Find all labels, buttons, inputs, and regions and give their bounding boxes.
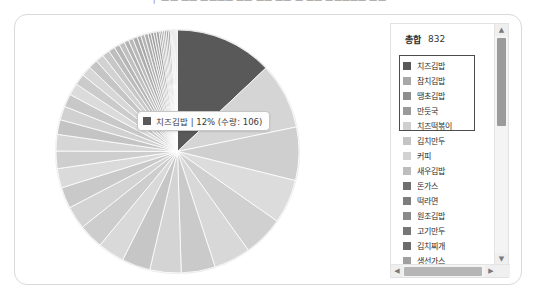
- legend-item-label: 커피: [417, 150, 431, 161]
- legend-item[interactable]: 치즈떡볶이: [403, 118, 495, 133]
- scrollbar-corner: [497, 265, 510, 277]
- clipped-top-text: ㅜ ㅡㅡ ㅡㅡ ㅡㅡㅡㅡ ㅡㅡ ㅡㅡ ㅡㅡ ㅡ ㅡㅡ ㅡㅡㅡㅡㅡ ㅡㅡ: [0, 0, 536, 9]
- legend-item-label: 치즈김밥: [417, 60, 445, 71]
- horizontal-scroll-thumb[interactable]: [404, 267, 482, 276]
- legend-item-label: 새우김밥: [417, 165, 445, 176]
- legend-panel: 총합 832 치즈김밥참치김밥땡초김밥만둣국치즈떡볶이김치만두커피새우김밥돈가스…: [390, 23, 509, 278]
- legend-item-label: 참치김밥: [417, 75, 445, 86]
- legend-vertical-scrollbar[interactable]: ▲ ▼: [494, 24, 508, 265]
- horizontal-scroll-track[interactable]: [403, 266, 485, 277]
- legend-scroll-viewport[interactable]: 치즈김밥참치김밥땡초김밥만둣국치즈떡볶이김치만두커피새우김밥돈가스떡라면원조김밥…: [391, 54, 495, 267]
- legend-item-label: 치즈떡볶이: [417, 120, 452, 131]
- pie-svg: [55, 29, 300, 274]
- legend-item-label: 땡초김밥: [417, 90, 445, 101]
- legend-swatch-icon: [403, 212, 411, 220]
- legend-item-label: 만둣국: [417, 105, 438, 116]
- legend-item[interactable]: 원조김밥: [403, 208, 495, 223]
- legend-item[interactable]: 참치김밥: [403, 73, 495, 88]
- legend-item[interactable]: 떡라면: [403, 193, 495, 208]
- pie-tooltip: 치즈김밥 | 12% (수량: 106): [137, 111, 270, 131]
- legend-item-list: 치즈김밥참치김밥땡초김밥만둣국치즈떡볶이김치만두커피새우김밥돈가스떡라면원조김밥…: [391, 54, 495, 267]
- legend-swatch-icon: [403, 92, 411, 100]
- legend-swatch-icon: [403, 137, 411, 145]
- legend-horizontal-scrollbar[interactable]: ◀ ▶: [391, 264, 510, 277]
- vertical-scroll-thumb[interactable]: [497, 38, 506, 126]
- legend-swatch-icon: [403, 122, 411, 130]
- legend-item[interactable]: 돈가스: [403, 178, 495, 193]
- legend-item[interactable]: 치즈김밥: [403, 58, 495, 73]
- scroll-up-arrow-icon[interactable]: ▲: [495, 24, 508, 36]
- screenshot-root: ㅜ ㅡㅡ ㅡㅡ ㅡㅡㅡㅡ ㅡㅡ ㅡㅡ ㅡㅡ ㅡ ㅡㅡ ㅡㅡㅡㅡㅡ ㅡㅡ 치즈김밥…: [0, 0, 536, 299]
- legend-item-label: 떡라면: [417, 195, 438, 206]
- legend-total-label: 총합: [405, 33, 421, 46]
- legend-swatch-icon: [403, 197, 411, 205]
- legend-item[interactable]: 김치만두: [403, 133, 495, 148]
- legend-item[interactable]: 만둣국: [403, 103, 495, 118]
- legend-swatch-icon: [403, 167, 411, 175]
- legend-swatch-icon: [403, 77, 411, 85]
- tooltip-text: 치즈김밥 | 12% (수량: 106): [156, 115, 262, 127]
- scroll-right-arrow-icon[interactable]: ▶: [485, 265, 497, 277]
- legend-swatch-icon: [403, 182, 411, 190]
- scroll-left-arrow-icon[interactable]: ◀: [391, 265, 403, 277]
- legend-item-label: 고기만두: [417, 225, 445, 236]
- legend-item[interactable]: 김치찌개: [403, 238, 495, 253]
- legend-swatch-icon: [403, 242, 411, 250]
- legend-swatch-icon: [403, 107, 411, 115]
- legend-item-label: 돈가스: [417, 180, 438, 191]
- chart-card: 치즈김밥 | 12% (수량: 106) 총합 832 치즈김밥참치김밥땡초김밥…: [14, 14, 522, 285]
- legend-item[interactable]: 새우김밥: [403, 163, 495, 178]
- legend-swatch-icon: [403, 152, 411, 160]
- legend-item-label: 원조김밥: [417, 210, 445, 221]
- legend-item[interactable]: 커피: [403, 148, 495, 163]
- pie-chart-area: 치즈김밥 | 12% (수량: 106): [33, 21, 363, 277]
- legend-item-label: 김치찌개: [417, 240, 445, 251]
- legend-swatch-icon: [403, 227, 411, 235]
- tooltip-swatch: [143, 117, 151, 125]
- legend-item[interactable]: 땡초김밥: [403, 88, 495, 103]
- legend-item[interactable]: 고기만두: [403, 223, 495, 238]
- legend-item-label: 김치만두: [417, 135, 445, 146]
- legend-swatch-icon: [403, 62, 411, 70]
- pie-chart[interactable]: [55, 29, 300, 274]
- legend-total-value: 832: [428, 34, 445, 44]
- legend-total: 총합 832: [391, 24, 494, 54]
